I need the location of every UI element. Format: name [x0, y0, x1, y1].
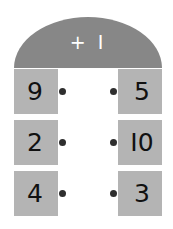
number-board: 9 5 2 I0 4 3	[14, 69, 162, 216]
right-connector-dot[interactable]	[110, 190, 117, 197]
right-connector-dot[interactable]	[110, 88, 117, 95]
left-number-value: 9	[27, 79, 43, 104]
right-connector-dot[interactable]	[110, 139, 117, 146]
operation-label: + I	[14, 33, 162, 52]
left-number-value: 4	[27, 181, 43, 206]
right-number-value: 3	[134, 181, 150, 206]
right-number-tile[interactable]: 5	[118, 69, 162, 114]
right-number-tile[interactable]: 3	[118, 171, 162, 216]
number-row: 2 I0	[14, 120, 162, 165]
left-connector-dot[interactable]	[59, 190, 66, 197]
left-number-tile[interactable]: 9	[14, 69, 58, 114]
right-number-value: 5	[134, 79, 150, 104]
left-connector-dot[interactable]	[59, 88, 66, 95]
left-connector-dot[interactable]	[59, 139, 66, 146]
matching-card: + I 9 5 2 I0 4	[0, 0, 173, 229]
right-number-tile[interactable]: I0	[118, 120, 162, 165]
right-number-value: I0	[130, 130, 153, 155]
left-number-tile[interactable]: 4	[14, 171, 58, 216]
left-number-value: 2	[27, 130, 43, 155]
number-row: 9 5	[14, 69, 162, 114]
arch-header: + I	[14, 17, 162, 68]
left-number-tile[interactable]: 2	[14, 120, 58, 165]
number-row: 4 3	[14, 171, 162, 216]
